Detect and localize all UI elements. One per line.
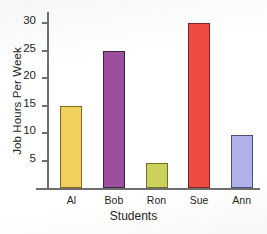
plot-area: 51015202530 AlBobRonSueAnn	[47, 12, 260, 190]
x-axis-label-bob: Bob	[90, 194, 138, 206]
y-axis-title: Job Hours Per Week	[11, 26, 23, 176]
y-axis-tick: 5	[42, 160, 49, 162]
x-axis-title: Students	[0, 209, 267, 223]
y-axis-tick-label: 10	[23, 124, 36, 136]
y-axis-tick-label: 15	[23, 97, 36, 109]
y-axis-tick: 30	[42, 22, 49, 24]
y-axis-tick-label: 30	[23, 14, 36, 26]
y-axis-tick-label: 25	[23, 42, 36, 54]
bar-sue	[188, 23, 210, 188]
x-axis-label-ann: Ann	[218, 194, 266, 206]
x-axis-label-al: Al	[47, 194, 95, 206]
y-axis-tick: 15	[42, 105, 49, 107]
y-axis-tick: 25	[42, 50, 49, 52]
y-axis-tick-label: 5	[30, 152, 36, 164]
bar-al	[60, 106, 82, 189]
bar-bob	[103, 51, 125, 189]
bar-ron	[146, 163, 168, 188]
y-axis-tick: 10	[42, 132, 49, 134]
bar-ann	[231, 135, 253, 188]
x-axis-label-sue: Sue	[175, 194, 223, 206]
x-axis-label-ron: Ron	[133, 194, 181, 206]
y-axis-tick-label: 20	[23, 69, 36, 81]
bar-chart: Job Hours Per Week 51015202530 AlBobRonS…	[0, 0, 267, 234]
y-axis-line	[47, 12, 49, 190]
x-axis-line	[36, 188, 260, 190]
y-axis-tick: 20	[42, 77, 49, 79]
